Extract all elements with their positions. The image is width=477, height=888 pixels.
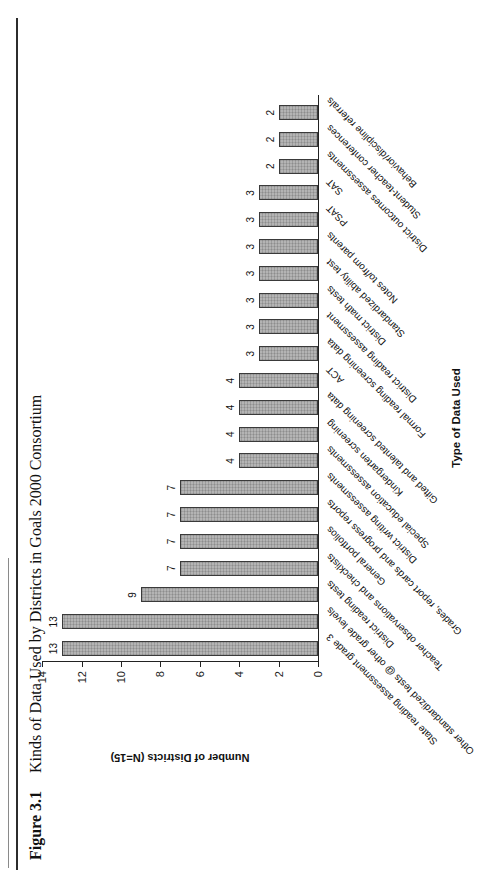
bar-value-label: 9	[127, 582, 138, 608]
bar-value-label: 4	[225, 421, 236, 447]
bar-value-label: 7	[166, 475, 177, 501]
bar-value-label: 13	[48, 636, 59, 662]
bar	[239, 400, 318, 415]
bar	[180, 534, 318, 549]
y-tick-mark	[239, 662, 240, 667]
bar	[180, 507, 318, 522]
bar-value-label: 3	[245, 287, 256, 313]
y-tick-mark	[160, 662, 161, 667]
y-tick-mark	[42, 662, 43, 667]
y-axis-line	[42, 661, 319, 662]
bar	[259, 293, 318, 308]
y-tick-mark	[318, 662, 319, 667]
bar	[180, 561, 318, 576]
y-tick-label: 6	[194, 671, 206, 701]
y-tick-label: 10	[115, 671, 127, 701]
bar-value-label: 7	[166, 502, 177, 528]
chart-area: Number of Districts (N=15) Type of Data …	[0, 0, 477, 888]
bar-value-label: 3	[245, 234, 256, 260]
bar	[239, 427, 318, 442]
y-tick-label: 8	[154, 671, 166, 701]
bar-value-label: 4	[225, 368, 236, 394]
bar-value-label: 2	[265, 126, 276, 152]
x-axis-line	[318, 95, 319, 662]
bar	[279, 105, 318, 120]
bar-value-label: 3	[245, 260, 256, 286]
bar	[259, 186, 318, 201]
bar	[180, 480, 318, 495]
bar	[279, 132, 318, 147]
category-label: PSAT	[324, 203, 350, 229]
bar	[259, 212, 318, 227]
bar-value-label: 3	[245, 341, 256, 367]
y-tick-label: 4	[233, 671, 245, 701]
y-tick-mark	[279, 662, 280, 667]
bar	[259, 346, 318, 361]
bar-value-label: 4	[225, 448, 236, 474]
bar-value-label: 2	[265, 100, 276, 126]
y-tick-label: 0	[312, 671, 324, 701]
bar	[62, 641, 318, 656]
bar	[279, 159, 318, 174]
category-label: SAT	[324, 176, 345, 197]
bar	[239, 454, 318, 469]
bar-value-label: 3	[245, 314, 256, 340]
y-tick-label: 14	[36, 671, 48, 701]
bar	[259, 239, 318, 254]
bar	[259, 320, 318, 335]
y-tick-mark	[200, 662, 201, 667]
y-tick-mark	[82, 662, 83, 667]
figure-sheet: Figure 3.1Kinds of Data Used by District…	[0, 0, 477, 888]
bar-value-label: 4	[225, 394, 236, 420]
bar	[141, 588, 318, 603]
bar-value-label: 13	[48, 609, 59, 635]
y-tick-label: 12	[76, 671, 88, 701]
bar-value-label: 3	[245, 180, 256, 206]
bar-value-label: 2	[265, 153, 276, 179]
category-label: ACT	[324, 364, 346, 386]
y-axis-title: Number of Districts (N=15)	[110, 752, 249, 764]
bar	[239, 373, 318, 388]
bar	[62, 614, 318, 629]
bar-value-label: 7	[166, 528, 177, 554]
scanned-page: Figure 3.1Kinds of Data Used by District…	[0, 0, 477, 888]
y-tick-mark	[121, 662, 122, 667]
bar-value-label: 3	[245, 207, 256, 233]
x-axis-title: Type of Data Used	[450, 278, 462, 558]
bar-value-label: 7	[166, 555, 177, 581]
bar	[259, 266, 318, 281]
y-tick-label: 2	[273, 671, 285, 701]
